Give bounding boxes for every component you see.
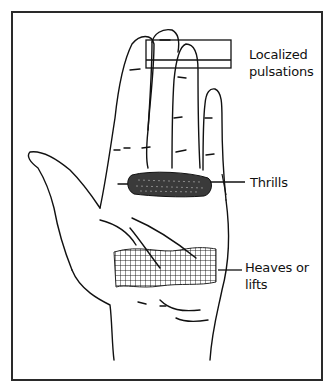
middle-finger-outline bbox=[152, 30, 179, 52]
label-heaves-or-lifts: Heaves or lifts bbox=[245, 259, 315, 293]
label-line: pulsations bbox=[249, 63, 319, 80]
thrills-marker bbox=[128, 172, 245, 197]
label-thrills: Thrills bbox=[250, 174, 288, 191]
label-localized-pulsations: Localized pulsations bbox=[249, 46, 319, 80]
label-line: Localized bbox=[249, 46, 319, 63]
thumb-outline bbox=[28, 152, 100, 270]
wrist-edge bbox=[72, 270, 114, 360]
label-line: Heaves or bbox=[245, 259, 315, 276]
heaves-marker bbox=[114, 248, 242, 287]
label-line: lifts bbox=[245, 276, 315, 293]
